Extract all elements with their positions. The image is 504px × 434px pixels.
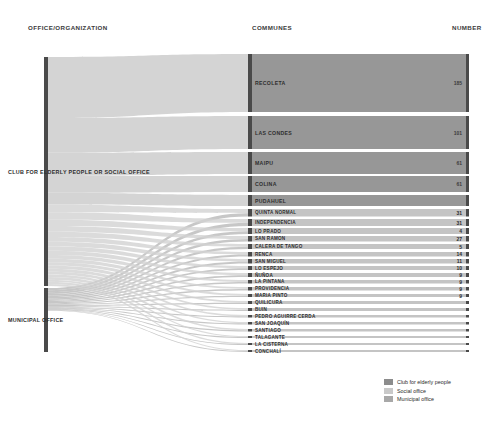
commune-label: PEDRO AGUIRRE CERDA: [255, 314, 315, 319]
legend-item: Municipal office: [384, 396, 451, 402]
commune-value: 9: [442, 279, 462, 285]
commune-value: 14: [442, 251, 462, 257]
commune-value: 11: [442, 258, 462, 264]
commune-value: 4: [442, 228, 462, 234]
legend-label: Club for elderly people: [397, 379, 451, 385]
commune-label: LAS CONDES: [255, 130, 292, 136]
commune-label: LO PRADO: [255, 229, 281, 234]
commune-value: 9: [442, 293, 462, 299]
commune-label: PROVIDENCIA: [255, 286, 289, 291]
commune-label: SANTIAGO: [255, 328, 281, 333]
legend-item: Social office: [384, 388, 451, 394]
commune-label: LA CISTERNA: [255, 342, 288, 347]
commune-label: PUDAHUEL: [255, 198, 286, 204]
commune-value: 27: [442, 236, 462, 242]
commune-label: LO ESPEJO: [255, 266, 283, 271]
commune-label: RECOLETA: [255, 80, 286, 86]
commune-value: 5: [442, 244, 462, 250]
commune-label: SAN MIGUEL: [255, 259, 286, 264]
legend-label: Social office: [397, 388, 426, 394]
commune-label: SAN RAMON: [255, 236, 285, 241]
commune-value: 101: [442, 130, 462, 136]
commune-value: 9: [442, 272, 462, 278]
commune-label: QUINTA NORMAL: [255, 210, 296, 215]
commune-value: 9: [442, 286, 462, 292]
sankey-flows: [0, 0, 504, 434]
legend-swatch: [384, 388, 393, 394]
commune-label: QUILICURA: [255, 300, 283, 305]
commune-label: MARIA PINTO: [255, 293, 288, 298]
commune-label: CALERA DE TANGO: [255, 244, 302, 249]
commune-label: LA PINTANA: [255, 279, 285, 284]
legend-swatch: [384, 396, 393, 402]
sankey-chart: OFFICE/ORGANIZATION COMMUNES NUMBER RECO…: [0, 0, 504, 434]
commune-label: TALAGANTE: [255, 335, 285, 340]
legend-swatch: [384, 379, 393, 385]
commune-label: COLINA: [255, 181, 277, 187]
commune-label: BUIN: [255, 307, 267, 312]
commune-label: ÑUÑOA: [255, 273, 273, 278]
commune-label: RENCA: [255, 252, 272, 257]
legend-label: Municipal office: [397, 396, 434, 402]
chart-legend: Club for elderly peopleSocial officeMuni…: [384, 379, 451, 405]
commune-value: 61: [442, 181, 462, 187]
commune-value: 31: [442, 210, 462, 216]
source-label: MUNICIPAL OFFICE: [8, 317, 64, 323]
commune-value: 31: [442, 220, 462, 226]
commune-value: 61: [442, 160, 462, 166]
commune-label: CONCHALÍ: [255, 349, 281, 354]
commune-label: SAN JOAQUÍN: [255, 321, 289, 326]
legend-item: Club for elderly people: [384, 379, 451, 385]
commune-label: MAIPU: [255, 160, 273, 166]
commune-value: 185: [442, 80, 462, 86]
commune-label: INDEPENDENCIA: [255, 220, 296, 225]
commune-value: 10: [442, 265, 462, 271]
source-label: CLUB FOR ELDERLY PEOPLE OR SOCIAL OFFICE: [8, 169, 150, 175]
